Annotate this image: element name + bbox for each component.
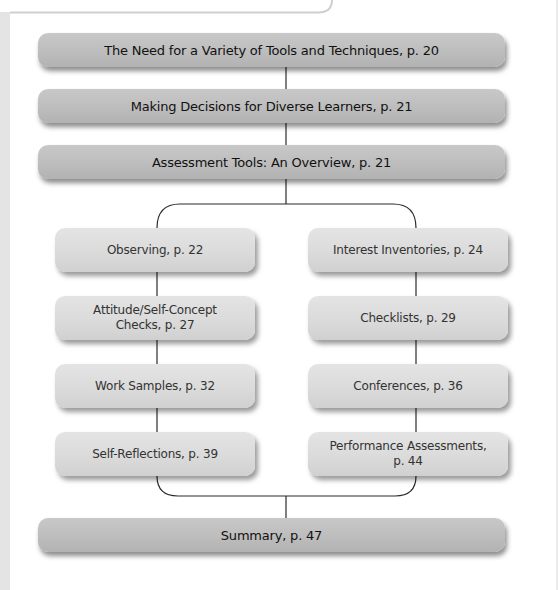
banner-label: Summary, p. 47 [221, 528, 322, 543]
box-label: Checklists, p. 29 [360, 311, 456, 326]
box-label: Conferences, p. 36 [353, 379, 462, 394]
banner-label: Assessment Tools: An Overview, p. 21 [152, 155, 391, 170]
banner-assessment-overview: Assessment Tools: An Overview, p. 21 [38, 145, 505, 179]
banner-label: The Need for a Variety of Tools and Tech… [104, 43, 439, 58]
box-label: Observing, p. 22 [107, 243, 203, 258]
page-edge-line [556, 0, 558, 590]
box-performance-assessments: Performance Assessments, p. 44 [308, 432, 508, 476]
box-label: Performance Assessments, p. 44 [329, 439, 486, 469]
box-conferences: Conferences, p. 36 [308, 364, 508, 408]
box-attitude-self-concept: Attitude/Self-Concept Checks, p. 27 [55, 296, 255, 340]
box-observing: Observing, p. 22 [55, 228, 255, 272]
banner-summary: Summary, p. 47 [38, 518, 505, 552]
banner-diverse-learners: Making Decisions for Diverse Learners, p… [38, 89, 505, 123]
box-label: Self-Reflections, p. 39 [92, 447, 218, 462]
page-margin-strip [0, 12, 10, 590]
box-label: Attitude/Self-Concept Checks, p. 27 [93, 303, 217, 333]
box-interest-inventories: Interest Inventories, p. 24 [308, 228, 508, 272]
box-self-reflections: Self-Reflections, p. 39 [55, 432, 255, 476]
banner-need-for-variety: The Need for a Variety of Tools and Tech… [38, 33, 505, 67]
frame-top-border [0, 0, 560, 30]
box-work-samples: Work Samples, p. 32 [55, 364, 255, 408]
box-label: Work Samples, p. 32 [95, 379, 215, 394]
box-label: Interest Inventories, p. 24 [333, 243, 483, 258]
banner-label: Making Decisions for Diverse Learners, p… [131, 99, 413, 114]
box-checklists: Checklists, p. 29 [308, 296, 508, 340]
